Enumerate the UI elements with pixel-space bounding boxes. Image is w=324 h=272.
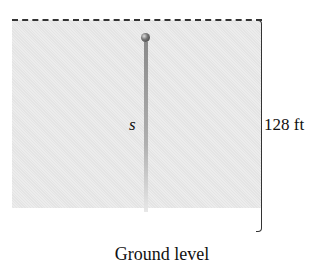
variable-label: s: [129, 115, 136, 135]
ground-label: Ground level: [0, 244, 324, 265]
ball-icon: [141, 33, 150, 42]
height-bracket: [256, 20, 262, 232]
top-dashed-line: [12, 19, 262, 21]
height-label: 128 ft: [264, 115, 304, 135]
ball-trail: [144, 42, 148, 212]
sky-panel: [12, 20, 262, 208]
